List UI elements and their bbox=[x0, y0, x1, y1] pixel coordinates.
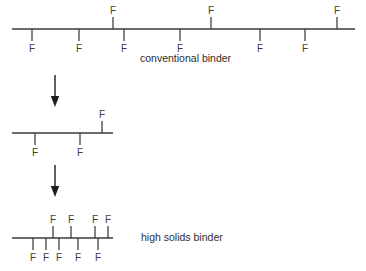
branch-label-f: F bbox=[76, 43, 82, 54]
branch-label-f: F bbox=[92, 214, 98, 225]
branch-label-f: F bbox=[43, 252, 49, 263]
arrow-step-1 bbox=[51, 75, 59, 107]
branch-label-f: F bbox=[110, 5, 116, 16]
chain-high-solids: FFFFFFFFF bbox=[12, 214, 113, 263]
branch-label-f: F bbox=[302, 43, 308, 54]
arrow-head-icon bbox=[51, 96, 59, 107]
branch-label-f: F bbox=[32, 147, 38, 158]
branch-label-f: F bbox=[29, 43, 35, 54]
branch-label-f: F bbox=[257, 43, 263, 54]
branch-label-f: F bbox=[75, 252, 81, 263]
branch-label-f: F bbox=[334, 5, 340, 16]
chain-conventional: FFFFFFFFF bbox=[12, 5, 355, 54]
branch-label-f: F bbox=[50, 214, 56, 225]
arrow-head-icon bbox=[51, 186, 59, 197]
branch-label-f: F bbox=[68, 214, 74, 225]
branch-label-f: F bbox=[30, 252, 36, 263]
figure-root: FFFFFFFFFconventional binderFFFFFFFFFFFF… bbox=[0, 0, 366, 271]
branch-label-f: F bbox=[99, 109, 105, 120]
branch-label-f: F bbox=[105, 214, 111, 225]
chain-intermediate: FFF bbox=[12, 109, 113, 158]
chain-caption-high-solids: high solids binder bbox=[141, 231, 223, 243]
branch-label-f: F bbox=[95, 252, 101, 263]
branch-label-f: F bbox=[56, 252, 62, 263]
branch-label-f: F bbox=[208, 5, 214, 16]
chain-caption-conventional: conventional binder bbox=[140, 52, 232, 64]
binder-schematic-diagram: FFFFFFFFFconventional binderFFFFFFFFFFFF… bbox=[0, 0, 366, 271]
arrow-step-2 bbox=[51, 165, 59, 197]
branch-label-f: F bbox=[77, 147, 83, 158]
branch-label-f: F bbox=[121, 43, 127, 54]
